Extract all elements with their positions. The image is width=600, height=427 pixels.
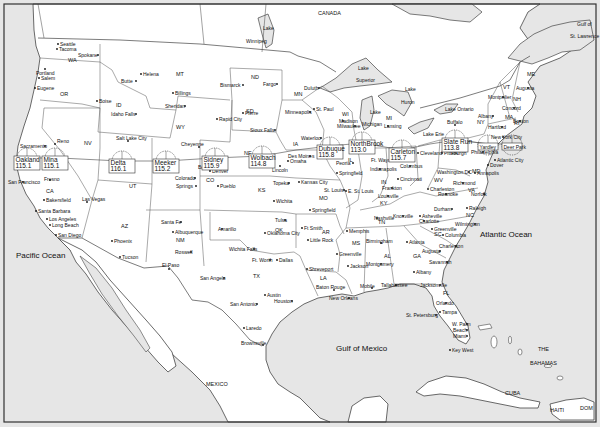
city-label: Sioux Falls xyxy=(250,127,275,133)
city-marker: Cincinnati xyxy=(397,176,422,182)
city-label: Phoenix xyxy=(114,238,133,244)
station-frequency: 115.8 xyxy=(319,151,335,158)
city-marker: Ft. Worth xyxy=(252,257,273,263)
city-label: Miami xyxy=(453,333,466,339)
city-marker: Cleveland xyxy=(417,150,442,156)
city-label: Richmond xyxy=(453,180,476,186)
state-label: KY xyxy=(380,200,388,206)
state-label: IA xyxy=(293,141,299,147)
state-label: UT xyxy=(129,183,137,189)
city-dot-icon xyxy=(298,181,300,183)
city-marker: Sacramento xyxy=(20,143,47,149)
state-label: LA xyxy=(320,275,327,281)
city-dot-icon xyxy=(34,87,36,89)
city-dot-icon xyxy=(474,172,476,174)
city-label: Cleveland xyxy=(420,150,442,156)
city-marker: St. Petersburg xyxy=(406,312,438,318)
city-label: Tucson xyxy=(122,254,138,260)
city-marker: Roanoke xyxy=(438,191,458,197)
city-label: San Angelo xyxy=(200,275,226,281)
city-dot-icon xyxy=(217,185,219,187)
city-marker: Santa Fe xyxy=(161,219,182,225)
city-marker: Springfield xyxy=(309,207,336,213)
city-label: Oklahoma City xyxy=(267,230,300,236)
city-label: Concord xyxy=(502,105,521,111)
city-marker: Idaho Falls xyxy=(111,111,137,117)
city-marker: Helena xyxy=(140,71,159,77)
city-label: Long Beach xyxy=(52,222,79,228)
city-label: Lansing xyxy=(384,123,402,129)
city-label: Reno xyxy=(57,138,69,144)
city-dot-icon xyxy=(287,160,289,162)
state-label: SC xyxy=(434,231,442,237)
city-dot-icon xyxy=(427,188,429,190)
city-label: Tulsa xyxy=(275,217,287,223)
city-label: Salt Lake City xyxy=(116,135,147,141)
city-marker: Washington DC xyxy=(437,169,472,175)
city-dot-icon xyxy=(54,143,56,145)
city-label: Jacksonville xyxy=(420,282,447,288)
city-dot-icon xyxy=(43,199,45,201)
city-label: Albany xyxy=(478,113,494,119)
city-label: Minneapolis xyxy=(285,109,312,115)
city-marker: E. St. Louis xyxy=(345,188,374,194)
lake-label: Lake Erie xyxy=(423,131,444,137)
city-label: Orlando xyxy=(436,300,454,306)
lake-label: Lake xyxy=(405,86,416,92)
city-marker: Norfolk xyxy=(471,191,487,197)
country-label: CUBA xyxy=(505,390,521,396)
country-label: DOM xyxy=(580,405,593,411)
city-label: Wichita Falls xyxy=(229,246,258,252)
lake-label: Superior xyxy=(356,77,375,83)
city-marker: Columbus xyxy=(400,163,423,169)
city-label: E. St. Louis xyxy=(348,188,374,194)
city-label: Fargo xyxy=(263,81,276,87)
city-label: Salem xyxy=(41,75,55,81)
state-label: VT xyxy=(503,84,511,90)
city-marker: Charlotte xyxy=(419,218,440,224)
city-label: Santa Fe xyxy=(161,219,182,225)
state-label: WV xyxy=(434,177,443,183)
city-marker: Fargo xyxy=(263,81,278,87)
state-label: NV xyxy=(84,140,92,146)
city-marker: Richmond xyxy=(453,180,476,186)
city-marker: Wilmington xyxy=(455,221,480,227)
city-marker: Pierre xyxy=(242,110,258,116)
state-label: AR xyxy=(322,229,330,235)
city-dot-icon xyxy=(276,259,278,261)
city-label: Ft Smith xyxy=(304,225,323,231)
city-label: Birmingham xyxy=(366,238,393,244)
station-frequency: 115.7 xyxy=(391,154,407,161)
city-marker: Pueblo xyxy=(217,183,236,189)
city-dot-icon xyxy=(55,234,57,236)
station-name: Deer Park xyxy=(504,144,527,150)
city-marker: Amarillo xyxy=(218,226,236,232)
city-marker: Atlanta xyxy=(406,239,425,245)
ocean-label: Gulf of xyxy=(577,21,592,27)
state-label: NY xyxy=(477,119,485,125)
city-dot-icon xyxy=(56,48,58,50)
city-marker: San Angelo xyxy=(200,275,226,281)
city-marker: Tulsa xyxy=(275,217,287,223)
city-label: Cincinnati xyxy=(400,176,422,182)
state-label: AZ xyxy=(121,223,129,229)
city-dot-icon xyxy=(195,185,197,187)
city-marker: Bakersfield xyxy=(43,197,71,203)
city-dot-icon xyxy=(264,294,266,296)
state-label: WY xyxy=(176,124,185,130)
city-marker: Jacksonville xyxy=(420,282,447,288)
city-label: Brownsville xyxy=(241,340,267,346)
city-marker: Roswell xyxy=(175,249,193,255)
city-dot-icon xyxy=(439,311,441,313)
city-marker: Shreveport xyxy=(306,266,334,272)
city-label: Boston xyxy=(513,118,529,124)
country-label: HAITI xyxy=(550,407,565,413)
city-label: Wichita xyxy=(276,198,293,204)
city-label: Sacramento xyxy=(20,143,47,149)
city-dot-icon xyxy=(397,178,399,180)
city-label: Charleston xyxy=(439,243,463,249)
state-label: FL xyxy=(443,290,449,296)
city-dot-icon xyxy=(336,172,338,174)
city-label: Wilmington xyxy=(455,221,480,227)
city-label: Raleigh xyxy=(469,205,486,211)
